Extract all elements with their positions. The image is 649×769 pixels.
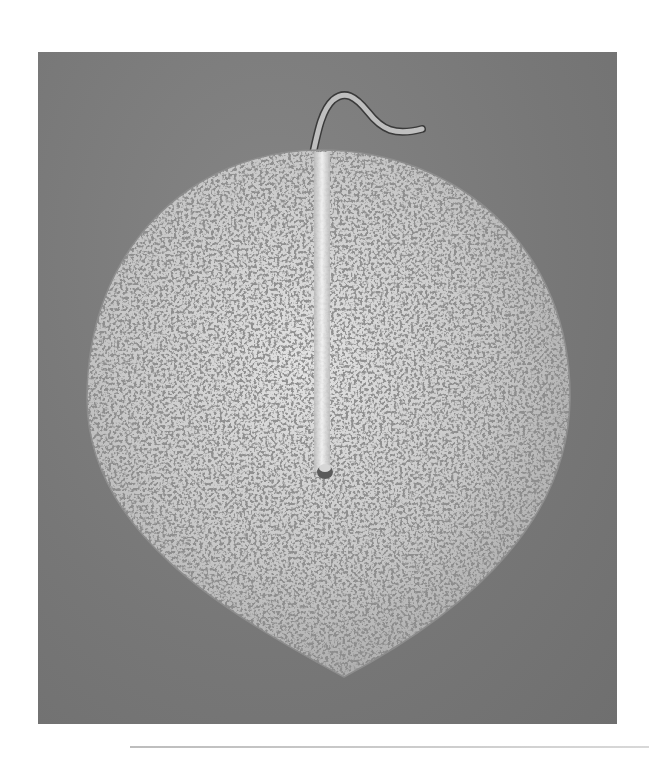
hook-handle — [312, 95, 422, 158]
divider-rule — [130, 746, 649, 748]
mirror-photo — [0, 0, 649, 769]
